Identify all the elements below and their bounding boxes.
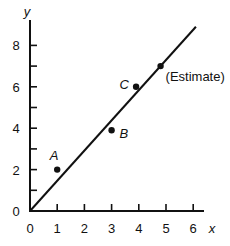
trend-line (30, 27, 196, 211)
y-tick-label: 0 (12, 204, 19, 219)
data-point (108, 127, 114, 133)
y-tick-label: 8 (12, 38, 19, 53)
point-label: B (120, 126, 129, 141)
y-ticks: 02468 (12, 38, 37, 219)
x-tick-label: 2 (81, 221, 88, 236)
x-ticks: 0123456 (26, 204, 196, 236)
x-tick-label: 4 (135, 221, 142, 236)
y-axis-label: y (23, 4, 32, 19)
data-point (54, 166, 60, 172)
x-axis-label: x (208, 221, 216, 236)
point-label: C (119, 77, 129, 92)
x-tick-label: 1 (54, 221, 61, 236)
x-tick-label: 5 (162, 221, 169, 236)
y-tick-label: 2 (12, 163, 19, 178)
y-tick-label: 6 (12, 80, 19, 95)
x-tick-label: 0 (26, 221, 33, 236)
point-label: (Estimate) (166, 69, 225, 84)
y-tick-label: 4 (12, 121, 19, 136)
chart: 0123456 02468 y x ABC(Estimate) (0, 0, 230, 246)
point-label: A (49, 148, 59, 163)
data-point (133, 84, 139, 90)
data-point (157, 63, 163, 69)
x-tick-label: 6 (190, 221, 197, 236)
data-points: ABC(Estimate) (49, 63, 225, 173)
x-tick-label: 3 (108, 221, 115, 236)
